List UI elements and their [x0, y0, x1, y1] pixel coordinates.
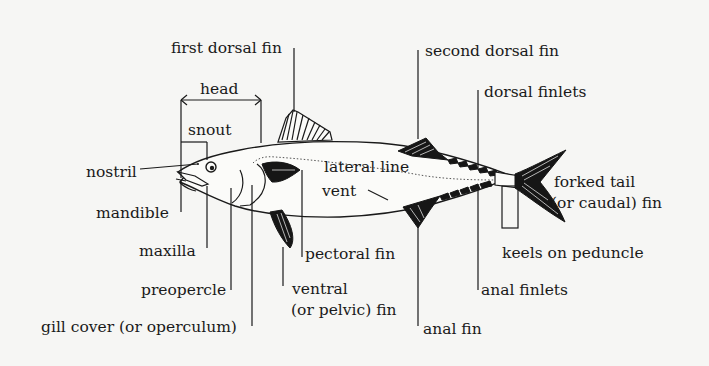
label-keels-on-peduncle: keels on peduncle — [502, 244, 644, 262]
first-dorsal-fin-shape — [278, 110, 332, 142]
label-ventral-fin: ventral — [291, 280, 348, 298]
fish-body-shape — [178, 142, 512, 217]
label-head: head — [200, 80, 238, 98]
label-pectoral-fin: pectoral fin — [305, 245, 395, 263]
label-first-dorsal-fin: first dorsal fin — [171, 39, 282, 57]
label-gill-cover: gill cover (or operculum) — [41, 318, 237, 336]
label-preopercle: preopercle — [141, 281, 226, 299]
fish-anatomy-diagram: first dorsal fin head snout nostril mand… — [0, 0, 709, 366]
label-pelvic-fin: (or pelvic) fin — [291, 301, 396, 319]
label-second-dorsal-fin: second dorsal fin — [425, 42, 559, 60]
label-snout: snout — [188, 121, 232, 139]
label-anal-finlets: anal finlets — [481, 281, 568, 299]
fish-illustration — [176, 110, 566, 248]
label-dorsal-finlets: dorsal finlets — [484, 83, 586, 101]
label-lateral-line: lateral line — [324, 158, 409, 176]
label-caudal-fin: (or caudal) fin — [551, 194, 662, 212]
label-nostril: nostril — [86, 163, 137, 181]
label-mandible: mandible — [96, 204, 169, 222]
label-vent: vent — [321, 182, 357, 200]
labels: first dorsal fin head snout nostril mand… — [41, 39, 662, 338]
label-maxilla: maxilla — [139, 242, 196, 260]
label-anal-fin: anal fin — [423, 320, 482, 338]
label-forked-tail: forked tail — [554, 173, 635, 191]
